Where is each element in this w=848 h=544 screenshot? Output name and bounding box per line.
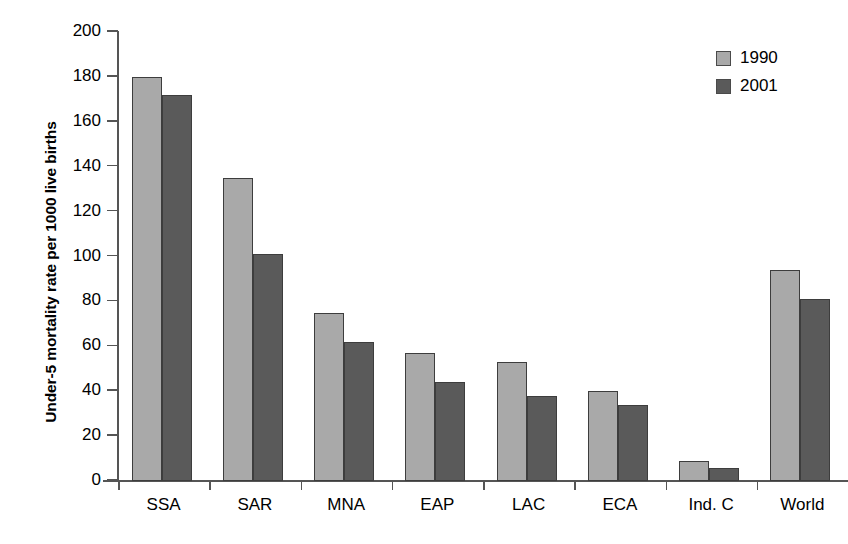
x-axis-tick-mark <box>574 480 576 490</box>
legend-label: 1990 <box>740 48 778 68</box>
dark-gray-swatch <box>716 79 731 94</box>
x-axis-tick-mark <box>118 480 120 490</box>
x-axis-category-label: Ind. C <box>688 495 733 515</box>
bar-sar-1990 <box>223 178 253 481</box>
bar-ind-c-1990 <box>679 461 709 481</box>
chart-legend: 19902001 <box>716 44 836 100</box>
bar-mna-2001 <box>344 342 374 481</box>
bar-ind-c-2001 <box>709 468 739 481</box>
bar-world-1990 <box>770 270 800 481</box>
x-axis-category-label: EAP <box>420 495 454 515</box>
bar-eap-2001 <box>435 382 465 481</box>
bar-eca-1990 <box>588 391 618 481</box>
x-axis-tick-mark <box>301 480 303 490</box>
x-axis-category-label: SSA <box>147 495 181 515</box>
bar-ssa-2001 <box>162 95 192 481</box>
bar-sar-2001 <box>253 254 283 481</box>
x-axis-category-label: SAR <box>237 495 272 515</box>
x-axis-category-label: MNA <box>327 495 365 515</box>
x-axis-tick-mark <box>757 480 759 490</box>
x-axis-tick-mark <box>392 480 394 490</box>
bar-eap-1990 <box>405 353 435 481</box>
light-gray-swatch <box>716 51 731 66</box>
legend-label: 2001 <box>740 76 778 96</box>
x-axis-tick-mark <box>666 480 668 490</box>
x-axis-category-label: LAC <box>512 495 545 515</box>
x-axis-category-label: World <box>780 495 824 515</box>
bar-lac-2001 <box>527 396 557 481</box>
bar-chart: Under-5 mortality rate per 1000 live bir… <box>0 0 848 544</box>
legend-entry-1990: 1990 <box>716 44 836 72</box>
x-axis-tick-mark <box>483 480 485 490</box>
bar-eca-2001 <box>618 405 648 481</box>
bar-ssa-1990 <box>132 77 162 481</box>
bar-world-2001 <box>800 299 830 481</box>
bar-lac-1990 <box>497 362 527 481</box>
x-axis-category-label: ECA <box>602 495 637 515</box>
legend-entry-2001: 2001 <box>716 72 836 100</box>
x-axis-tick-mark <box>209 480 211 490</box>
bar-mna-1990 <box>314 313 344 481</box>
